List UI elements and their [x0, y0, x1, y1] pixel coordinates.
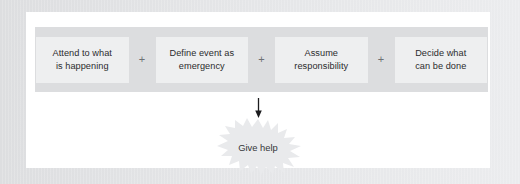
chain-step-attend: Attend to what is happening [36, 37, 129, 83]
chain-step-attend-line1: Attend to what [53, 47, 112, 59]
chain-step-assume-line1: Assume [294, 47, 348, 59]
chain-step-decide: Decide what can be done [395, 37, 488, 83]
chain-step-define: Define event as emergency [156, 37, 249, 83]
chain-step-decide-line2: can be done [415, 60, 466, 72]
outcome-burst: Give help [26, 116, 490, 178]
chain-step-assume-line2: responsibility [294, 60, 348, 72]
chain-row: Attend to what is happening + Define eve… [35, 27, 488, 92]
chain-connector-plus-1: + [129, 54, 156, 65]
chain-step-assume: Assume responsibility [275, 37, 368, 83]
chain-step-decide-line1: Decide what [415, 47, 466, 59]
chain-step-attend-line2: is happening [53, 60, 112, 72]
chain-connector-plus-2: + [248, 54, 275, 65]
outcome-label: Give help [238, 142, 278, 153]
chain-connector-plus-3: + [368, 54, 395, 65]
figure-card: Attend to what is happening + Define eve… [26, 12, 490, 168]
chain-step-define-line1: Define event as [169, 47, 234, 59]
chain-band: Attend to what is happening + Define eve… [35, 27, 488, 92]
chain-step-define-line2: emergency [169, 60, 234, 72]
figure-page: Attend to what is happening + Define eve… [0, 0, 520, 184]
